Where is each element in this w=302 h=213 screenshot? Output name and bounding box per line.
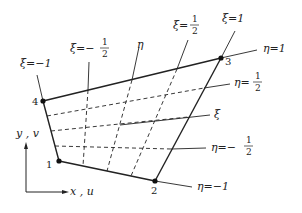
eta-minus-half-num: 1	[246, 135, 252, 145]
node-3	[218, 55, 223, 60]
eta-half-num: 1	[255, 71, 261, 81]
x-axis-label: x , u	[70, 185, 94, 198]
xi-1-label: ξ=1	[222, 12, 244, 25]
xi-half-num: 1	[192, 14, 198, 24]
xi-minus-1-label: ξ=−1	[20, 57, 52, 70]
eta-axis-label: η	[137, 38, 144, 51]
xi-minus-half-den: 2	[102, 49, 108, 59]
node-4	[40, 98, 45, 103]
eta-minus-1-label: η=−1	[197, 180, 229, 193]
node-3-label: 3	[225, 56, 231, 67]
isoparametric-element-diagram: y , v x , u	[0, 0, 302, 213]
eta-half-label: η=	[234, 76, 250, 89]
nodes	[40, 55, 223, 183]
xi-extension-lines	[37, 31, 235, 101]
element-boundary	[43, 58, 221, 181]
node-1-label: 1	[46, 159, 52, 170]
node-4-label: 4	[32, 96, 38, 107]
eta-1-label: η=1	[263, 42, 286, 55]
xi-minus-half-label: ξ=−	[70, 42, 95, 55]
eta-half-den: 2	[255, 83, 261, 93]
xi-half-label: ξ=	[173, 19, 188, 32]
node-2-label: 2	[151, 185, 157, 196]
xi-axis-label: ξ	[214, 108, 221, 121]
node-2	[152, 178, 157, 183]
eta-minus-half-label: η=−	[211, 141, 236, 154]
node-1	[56, 158, 61, 163]
global-axes: y , v x , u	[15, 127, 94, 198]
eta-minus-half-den: 2	[246, 147, 252, 157]
xi-minus-half-num: 1	[102, 37, 108, 47]
y-axis-label: y , v	[15, 127, 40, 140]
xi-half-den: 2	[192, 26, 198, 36]
